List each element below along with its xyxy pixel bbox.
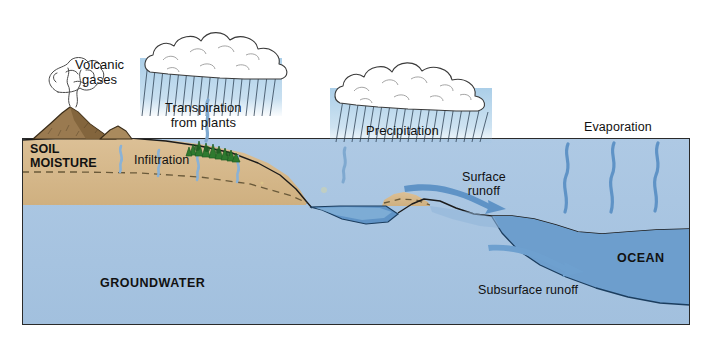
label-volcanic-gases: Volcanic gases bbox=[75, 58, 124, 87]
cloud-left-shape bbox=[145, 33, 287, 79]
label-subsurface-runoff: Subsurface runoff bbox=[478, 283, 578, 297]
cross-section-body bbox=[22, 137, 690, 325]
label-precipitation: Precipitation bbox=[366, 124, 439, 139]
water-cycle-diagram: Volcanic gases Transpiration from plants… bbox=[0, 0, 712, 351]
volcano-secondary-cone bbox=[100, 126, 132, 139]
label-transpiration-from-plants: Transpiration from plants bbox=[165, 101, 242, 130]
diagram-canvas bbox=[0, 0, 712, 351]
label-soil-moisture: SOIL MOISTURE bbox=[30, 142, 97, 170]
label-groundwater: GROUNDWATER bbox=[100, 276, 205, 290]
cloud-right-shape bbox=[335, 63, 484, 111]
label-ocean: OCEAN bbox=[617, 251, 665, 265]
label-infiltration: Infiltration bbox=[134, 153, 189, 167]
label-evaporation: Evaporation bbox=[584, 120, 652, 134]
label-surface-runoff: Surface runoff bbox=[462, 170, 506, 198]
